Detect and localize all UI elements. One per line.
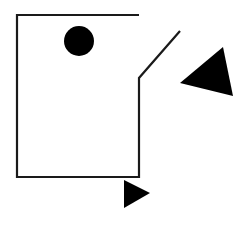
shape-svg-root [0, 0, 248, 226]
filled-circle[interactable] [64, 26, 94, 56]
figure-canvas: Geometric shapes figure Open rectangle w… [0, 0, 248, 226]
